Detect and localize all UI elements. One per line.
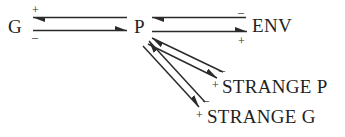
node-label-g: G bbox=[8, 17, 22, 36]
node-label-p: P bbox=[134, 17, 145, 36]
node-label-strange-p: STRANGE P bbox=[222, 77, 328, 96]
edge-p-to-strangep bbox=[148, 44, 217, 78]
sign-label-g-minus: – bbox=[32, 31, 38, 43]
signed-interaction-diagram: G P ENV STRANGE P STRANGE G + – – + – + … bbox=[0, 0, 345, 137]
sign-label-strange-g-plus: + bbox=[196, 109, 203, 121]
sign-label-strange-g-minus: – bbox=[203, 94, 209, 106]
sign-label-env-minus: – bbox=[238, 6, 244, 18]
sign-label-strange-p-plus: + bbox=[212, 79, 219, 91]
sign-label-g-plus: + bbox=[32, 4, 39, 16]
sign-label-strange-p-minus: – bbox=[219, 64, 225, 76]
node-label-strange-g: STRANGE G bbox=[207, 107, 316, 126]
node-label-env: ENV bbox=[252, 16, 292, 35]
sign-label-env-plus: + bbox=[238, 35, 245, 47]
